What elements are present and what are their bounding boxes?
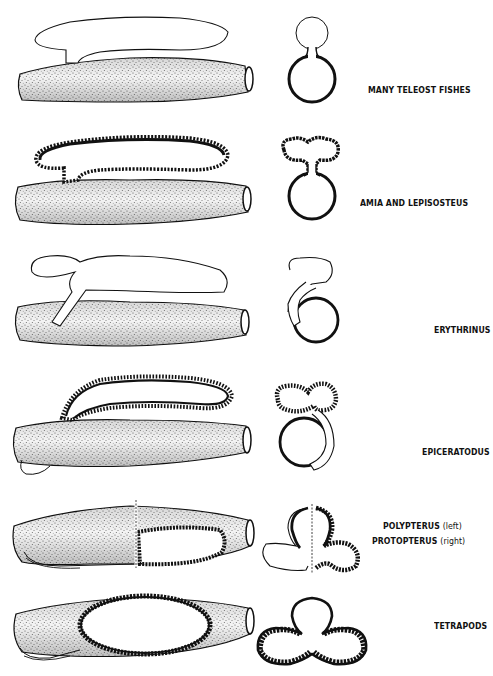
polypterus-protopterus-cross-section (263, 504, 358, 574)
label-polypterus-name: POLYPTERUS (383, 520, 440, 531)
epiceratodus-cross-section (277, 384, 336, 470)
label-amia-and-lepisosteus: AMIA AND LEPISOSTEUS (360, 197, 468, 208)
teleost-lateral-view (18, 17, 253, 102)
label-protopterus-name: PROTOPTERUS (372, 535, 437, 546)
label-erythrinus: ERYTHRINUS (434, 324, 491, 335)
epiceratodus-lateral-view (13, 376, 251, 474)
erythrinus-cross-section (288, 258, 338, 343)
label-protopterus-side: (right) (440, 535, 465, 546)
tetrapod-cross-section (258, 598, 366, 664)
amia-lateral-view (15, 137, 251, 225)
label-many-teleost-fishes: MANY TELEOST FISHES (368, 84, 471, 95)
tetrapod-lateral-view (14, 596, 254, 660)
polypterus-protopterus-lateral-view (13, 500, 254, 568)
label-protopterus: PROTOPTERUS (right) (372, 535, 465, 546)
amia-cross-section (283, 138, 338, 219)
label-epiceratodus: EPICERATODUS (422, 446, 490, 457)
label-tetrapods: TETRAPODS (434, 620, 487, 631)
label-polypterus: POLYPTERUS (left) (383, 520, 462, 531)
teleost-cross-section (289, 17, 335, 102)
label-polypterus-side: (left) (443, 520, 462, 531)
diagram-canvas (0, 0, 493, 676)
erythrinus-lateral-view (15, 256, 249, 346)
